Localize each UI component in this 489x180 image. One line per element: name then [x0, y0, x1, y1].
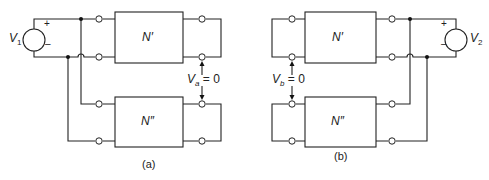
plus-sign: +: [441, 18, 447, 29]
voltage-label-vb: Vb = 0: [272, 72, 305, 88]
caption-b: (b): [334, 150, 347, 162]
circuit-diagram: [0, 0, 489, 180]
caption-a: (a): [142, 158, 155, 170]
network-label-n-double-prime: N″: [141, 114, 154, 128]
source-label-v1: V1: [9, 31, 21, 47]
network-label-n-prime: N′: [332, 30, 343, 44]
source-label-v2: V2: [470, 31, 482, 47]
junction-dot: [79, 17, 83, 21]
plus-sign: +: [44, 18, 50, 29]
network-label-n-prime: N′: [142, 30, 153, 44]
junction-dot: [408, 17, 412, 21]
junction-dot: [425, 55, 429, 59]
network-label-n-double-prime: N″: [331, 114, 344, 128]
voltage-label-va: Va = 0: [187, 72, 220, 88]
minus-sign: –: [45, 38, 51, 49]
voltage-source-v2-icon: [445, 29, 467, 51]
voltage-source-v1-icon: [23, 29, 45, 51]
minus-sign: –: [441, 38, 447, 49]
junction-dot: [66, 55, 70, 59]
